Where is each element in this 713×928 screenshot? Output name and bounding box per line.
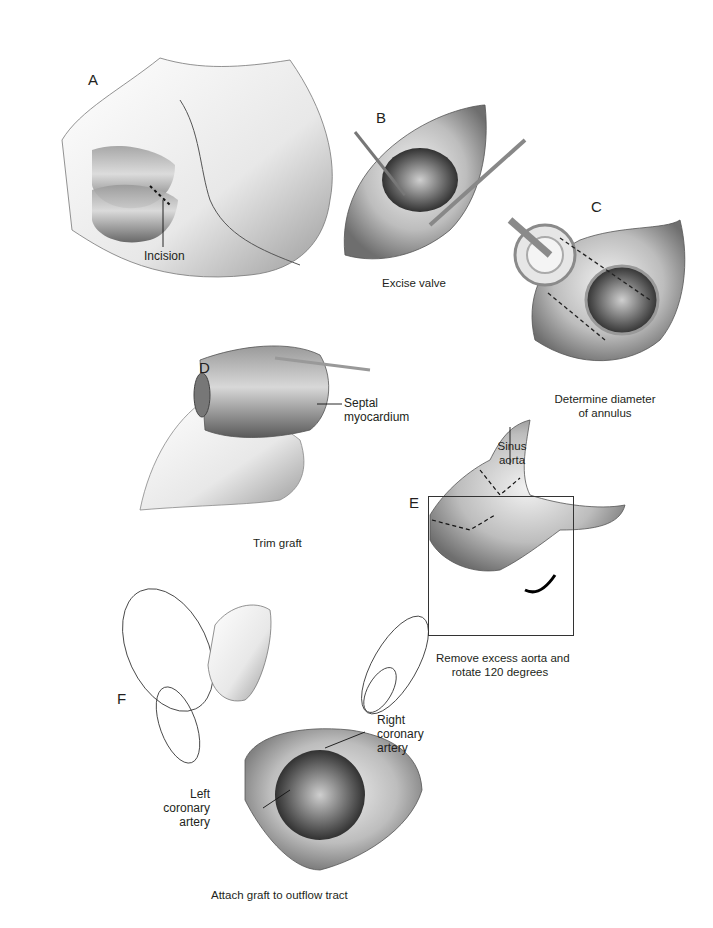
right-coronary-line-2: coronary: [377, 727, 424, 741]
panel-c-caption-line-2: of annulus: [549, 406, 661, 420]
panel-c-caption-line-1: Determine diameter: [549, 392, 661, 406]
panel-b-letter: B: [376, 110, 386, 126]
panel-c-letter: C: [591, 199, 602, 215]
right-coronary-line-1: Right: [377, 713, 424, 727]
right-coronary-line-3: artery: [377, 741, 424, 755]
panel-b-art: [344, 105, 525, 259]
sinus-aorta-label: Sinus aorta: [492, 439, 532, 467]
illustration-art: [0, 0, 713, 928]
panel-d-art: [140, 346, 370, 510]
sinus-label-line-1: Sinus: [492, 439, 532, 453]
right-coronary-artery-label: Right coronary artery: [377, 713, 424, 755]
panel-b-caption: Excise valve: [382, 276, 446, 290]
septal-label-line-1: Septal: [344, 396, 409, 410]
septal-label-line-2: myocardium: [344, 410, 409, 424]
panel-e-frame: [428, 496, 574, 636]
sinus-label-line-2: aorta: [492, 453, 532, 467]
septal-myocardium-label: Septal myocardium: [344, 396, 409, 424]
left-coronary-line-1: Left: [150, 787, 210, 801]
panel-e-caption: Remove excess aorta and rotate 120 degre…: [436, 651, 564, 679]
left-coronary-line-3: artery: [150, 815, 210, 829]
panel-e-caption-line-2: rotate 120 degrees: [436, 665, 564, 679]
panel-c-art: [510, 220, 685, 361]
panel-a-letter: A: [88, 72, 98, 88]
incision-label: Incision: [144, 249, 185, 263]
panel-a-art: [62, 58, 332, 277]
panel-d-caption: Trim graft: [253, 536, 302, 550]
panel-f-letter: F: [117, 691, 126, 707]
panel-e-caption-line-1: Remove excess aorta and: [436, 651, 564, 665]
panel-f-caption: Attach graft to outflow tract: [211, 888, 348, 902]
panel-d-letter: D: [199, 360, 210, 376]
left-coronary-artery-label: Left coronary artery: [150, 787, 210, 829]
panel-c-caption: Determine diameter of annulus: [549, 392, 661, 420]
panel-e-letter: E: [409, 495, 419, 511]
left-coronary-line-2: coronary: [150, 801, 210, 815]
